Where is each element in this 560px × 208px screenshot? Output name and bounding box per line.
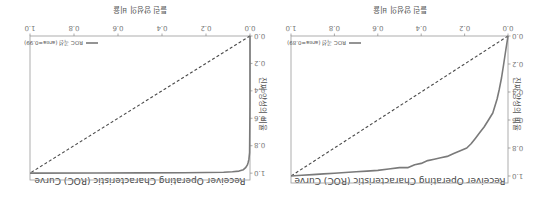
x-axis-label: 틀린 양성의 비율 — [373, 5, 427, 15]
y-tick-label: 0.8 — [254, 141, 265, 149]
x-axis-label: 틀린 양성의 비율 — [113, 5, 167, 15]
y-tick-label: 0.0 — [512, 32, 523, 40]
plot-frame — [30, 36, 250, 180]
x-tick-label: 0.4 — [415, 24, 427, 32]
y-tick-label: 0.8 — [512, 144, 523, 152]
y-tick-label: 0.6 — [253, 114, 265, 122]
y-tick-label: 0.4 — [511, 88, 523, 96]
x-tick-label: 0.2 — [459, 24, 470, 32]
chart-title: Receiver Operating Characteristic (ROC) … — [294, 176, 506, 186]
y-tick-label: 1.0 — [254, 169, 265, 177]
x-tick-label: 0.4 — [156, 24, 168, 32]
y-tick-label: 0.0 — [254, 32, 265, 40]
x-tick-label: 0.8 — [329, 24, 340, 32]
x-tick-label: 1.0 — [285, 24, 296, 32]
y-tick-label: 0.4 — [253, 86, 265, 94]
y-tick-label: 0.2 — [254, 59, 265, 67]
roc-figure: Receiver Operating Characteristic (ROC) … — [0, 0, 560, 208]
y-tick-label: 0.2 — [512, 60, 523, 68]
plot-frame — [291, 36, 508, 183]
chart-title: Receiver Operating Characteristic (ROC) … — [34, 176, 246, 186]
legend: ROC 곡선 (area=0.99) — [24, 39, 98, 47]
x-ticks: 0.00.20.40.60.81.0 — [285, 24, 513, 36]
x-ticks: 0.00.20.40.60.81.0 — [24, 24, 255, 36]
roc-chart-auc-089: Receiver Operating Characteristic (ROC) … — [285, 5, 523, 186]
legend-label: ROC 곡선 (area=0.99) — [24, 39, 83, 47]
roc-chart-auc-099: Receiver Operating Characteristic (ROC) … — [24, 5, 268, 186]
x-tick-label: 1.0 — [24, 24, 35, 32]
figure-rotated: Receiver Operating Characteristic (ROC) … — [0, 0, 560, 208]
y-axis-label: 진짜 양성의 비율 — [258, 77, 268, 131]
y-tick-label: 1.0 — [512, 172, 523, 180]
x-tick-label: 0.2 — [200, 24, 211, 32]
y-tick-label: 0.6 — [511, 116, 523, 124]
legend: ROC 곡선 (area=0.89) — [287, 39, 361, 47]
random-diagonal-line — [291, 36, 508, 176]
random-diagonal-line — [30, 36, 250, 173]
x-tick-label: 0.6 — [112, 24, 124, 32]
legend-label: ROC 곡선 (area=0.89) — [287, 39, 346, 47]
x-tick-label: 0.6 — [372, 24, 384, 32]
x-tick-label: 0.8 — [68, 24, 79, 32]
